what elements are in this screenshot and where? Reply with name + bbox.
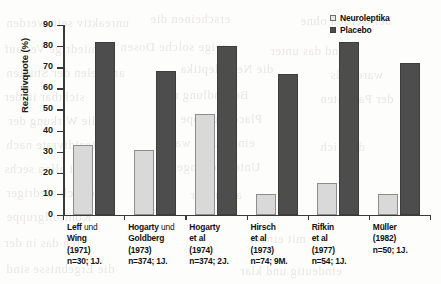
y-tick-label: 20 bbox=[43, 167, 53, 177]
x-label-line-sample: n=50; 1J. bbox=[373, 245, 408, 256]
bar-group bbox=[247, 25, 308, 215]
x-label-line-author: Hogarty und bbox=[128, 222, 174, 233]
x-tick bbox=[247, 215, 248, 220]
y-tick-label: 60 bbox=[43, 82, 53, 92]
x-axis-label: Hogartyet al(1974)n=374; 2J. bbox=[189, 222, 228, 268]
x-label-line-author: Leff und bbox=[67, 222, 102, 233]
x-label-line-cont: et al bbox=[312, 233, 347, 244]
x-label-line-author: Müller bbox=[373, 222, 408, 233]
x-label-line-author: Rifkin bbox=[312, 222, 347, 233]
x-axis-label: Leff undWing(1971)n=30; 1J. bbox=[67, 222, 102, 268]
x-tick bbox=[124, 215, 125, 220]
x-label-line-year: (1974) bbox=[189, 245, 228, 256]
x-label-line-cont: et al bbox=[189, 233, 228, 244]
bar-neuroleptika bbox=[256, 194, 276, 215]
chart-legend: NeuroleptikaPlacebo bbox=[330, 12, 390, 36]
x-label-line-cont: Goldberg bbox=[128, 233, 174, 244]
bar-placebo bbox=[278, 74, 298, 215]
x-label-line-sample: n=54; 1J. bbox=[312, 256, 347, 267]
x-label-line-year: (1973) bbox=[251, 245, 288, 256]
x-label-line-year: (1971) bbox=[67, 245, 102, 256]
x-label-line-sample: n=374; 1J. bbox=[128, 256, 174, 267]
legend-item: Placebo bbox=[330, 24, 390, 35]
x-label-line-author: Hogarty bbox=[189, 222, 228, 233]
x-label-line-year: (1982) bbox=[373, 233, 408, 244]
bar-placebo bbox=[400, 63, 420, 215]
x-tick bbox=[369, 215, 370, 220]
bar-group bbox=[124, 25, 185, 215]
y-tick-label: 40 bbox=[43, 125, 53, 135]
legend-label: Neuroleptika bbox=[340, 13, 390, 23]
bar-neuroleptika bbox=[195, 114, 215, 215]
x-label-line-cont: et al bbox=[251, 233, 288, 244]
x-label-line-year: (1977) bbox=[312, 245, 347, 256]
x-label-line-sample: n=74; 9M. bbox=[251, 256, 288, 267]
x-axis-label: Hogarty undGoldberg(1973)n=374; 1J. bbox=[128, 222, 174, 268]
y-axis-title: Rezidivquote (%) bbox=[19, 6, 30, 146]
legend-swatch-icon bbox=[330, 27, 336, 33]
bar-neuroleptika bbox=[378, 194, 398, 215]
legend-label: Placebo bbox=[340, 25, 372, 35]
bar-placebo bbox=[156, 71, 176, 215]
legend-swatch-icon bbox=[330, 15, 336, 21]
chart-screenshot: unreaktiv sein werdenerscheinen diebei w… bbox=[0, 0, 441, 284]
x-label-line-sample: n=374; 2J. bbox=[189, 256, 228, 267]
legend-item: Neuroleptika bbox=[330, 12, 390, 23]
x-axis-label: Rifkinet al(1977)n=54; 1J. bbox=[312, 222, 347, 268]
y-tick-label: 80 bbox=[43, 40, 53, 50]
y-tick-label: 0 bbox=[48, 209, 53, 219]
bar-groups bbox=[63, 25, 430, 215]
bar-neuroleptika bbox=[317, 183, 337, 215]
x-tick bbox=[430, 215, 431, 220]
bar-chart: Rezidivquote (%) 0102030405060708090 Neu… bbox=[0, 0, 441, 284]
x-label-line-year: (1973) bbox=[128, 245, 174, 256]
y-tick-label: 70 bbox=[43, 61, 53, 71]
bar-group bbox=[63, 25, 124, 215]
x-axis-label: Müller (1982)n=50; 1J. bbox=[373, 222, 408, 256]
y-tick-label: 50 bbox=[43, 103, 53, 113]
bar-placebo bbox=[217, 46, 237, 215]
x-label-line-author: Hirsch bbox=[251, 222, 288, 233]
bar-group bbox=[369, 25, 430, 215]
x-tick bbox=[185, 215, 186, 220]
x-axis-label: Hirschet al(1973)n=74; 9M. bbox=[251, 222, 288, 268]
y-tick-label: 10 bbox=[43, 188, 53, 198]
x-label-line-sample: n=30; 1J. bbox=[67, 256, 102, 267]
bar-placebo bbox=[339, 42, 359, 215]
x-axis-labels: Leff undWing(1971)n=30; 1J.Hogarty undGo… bbox=[63, 222, 441, 282]
x-label-line-cont: Wing bbox=[67, 233, 102, 244]
x-tick bbox=[63, 215, 64, 220]
x-tick bbox=[308, 215, 309, 220]
bar-neuroleptika bbox=[134, 150, 154, 215]
y-tick-label: 90 bbox=[43, 19, 53, 29]
y-tick-label: 30 bbox=[43, 146, 53, 156]
bar-neuroleptika bbox=[73, 145, 93, 215]
bar-group bbox=[185, 25, 246, 215]
bar-placebo bbox=[95, 42, 115, 215]
bar-group bbox=[308, 25, 369, 215]
